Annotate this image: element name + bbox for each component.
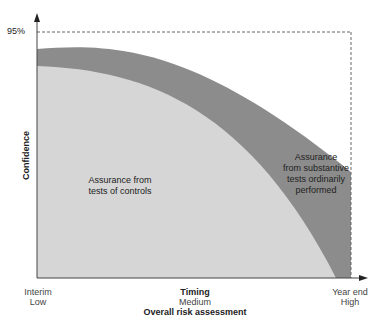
y-max-label: 95% xyxy=(7,26,25,37)
subst-label-1: Assurance xyxy=(278,152,354,163)
x-left-risk: Low xyxy=(18,297,58,308)
x-axis-arrow-icon xyxy=(359,275,368,281)
x-right-risk: High xyxy=(325,297,375,308)
controls-label-1: Assurance from xyxy=(80,175,160,186)
controls-label-2: tests of controls xyxy=(80,186,160,197)
y-axis-arrow-icon xyxy=(34,13,40,22)
subst-label-4: performed xyxy=(278,185,354,196)
x-axis-label: Overall risk assessment xyxy=(135,307,255,318)
subst-label-2: from substantive xyxy=(278,163,354,174)
subst-label-3: tests ordinarily xyxy=(278,174,354,185)
y-axis-label: Confidence xyxy=(21,126,32,186)
